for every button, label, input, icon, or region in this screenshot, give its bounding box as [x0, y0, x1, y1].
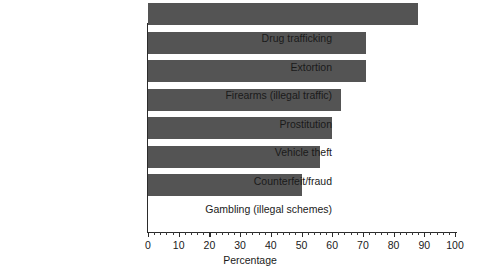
bar [148, 3, 418, 25]
category-label: Vehicle theft [275, 147, 332, 158]
category-label: Gambling (illegal schemes) [205, 204, 332, 215]
category-label: Firearms (illegal traffic) [225, 90, 332, 101]
x-axis-title: Percentage [0, 254, 484, 266]
bar [148, 60, 366, 82]
bar-fill [148, 32, 366, 54]
category-label: Prostitution [279, 119, 332, 130]
bar-fill [148, 3, 418, 25]
bar-series [0, 0, 484, 276]
category-label: Counterfeit/fraud [254, 176, 332, 187]
x-axis-title-text: Percentage [223, 254, 277, 266]
category-label: Drug trafficking [262, 33, 332, 44]
bar-chart: 0102030405060708090100 Drug traffickingE… [0, 0, 484, 276]
category-label: Extortion [291, 62, 332, 73]
bar-fill [148, 60, 366, 82]
bar [148, 32, 366, 54]
